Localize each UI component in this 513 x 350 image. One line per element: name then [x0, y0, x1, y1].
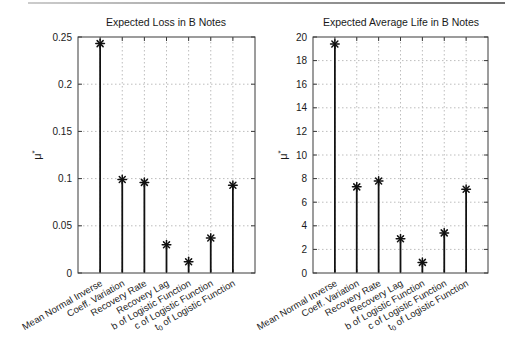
y-tick-label: 20 — [296, 32, 308, 43]
y-tick-label: 16 — [296, 79, 308, 90]
y-tick-label: 0.15 — [53, 126, 73, 137]
stem-marker — [462, 185, 471, 194]
y-tick-label: 14 — [296, 102, 308, 113]
stem-charts-canvas: 00.050.10.150.20.25Mean Normal InverseCo… — [0, 0, 513, 350]
y-tick-label: 18 — [296, 55, 308, 66]
y-tick-label: 0.25 — [53, 32, 73, 43]
stem-marker — [162, 240, 171, 249]
y-tick-label: 0.2 — [58, 79, 72, 90]
stem-marker — [229, 181, 238, 190]
stem-marker — [140, 178, 149, 187]
stem-marker — [396, 234, 405, 243]
stem-marker — [331, 40, 340, 49]
y-tick-label: 2 — [301, 244, 307, 255]
y-tick-label: 10 — [296, 150, 308, 161]
y-tick-label: 0 — [301, 268, 307, 279]
y-tick-label: 8 — [301, 173, 307, 184]
stem-marker — [418, 258, 427, 267]
y-tick-label: 0.05 — [53, 220, 73, 231]
y-axis-label: μ* — [276, 150, 289, 159]
y-tick-label: 6 — [301, 197, 307, 208]
figure-page: Expected Loss in B Notes Expected Averag… — [0, 0, 513, 350]
stem-marker — [206, 234, 215, 243]
right-chart: 02468101214161820Mean Normal InverseCoef… — [255, 32, 488, 334]
y-tick-label: 0 — [66, 268, 72, 279]
y-tick-label: 4 — [301, 220, 307, 231]
stem-marker — [96, 39, 105, 48]
y-tick-label: 0.1 — [58, 173, 72, 184]
y-tick-label: 12 — [296, 126, 308, 137]
stem-marker — [118, 175, 127, 184]
stem-marker — [352, 183, 361, 192]
stem-marker — [374, 177, 383, 186]
stem-marker — [184, 257, 193, 266]
left-chart: 00.050.10.150.20.25Mean Normal InverseCo… — [20, 32, 255, 334]
y-axis-label: μ* — [30, 150, 43, 159]
stem-marker — [440, 229, 449, 238]
